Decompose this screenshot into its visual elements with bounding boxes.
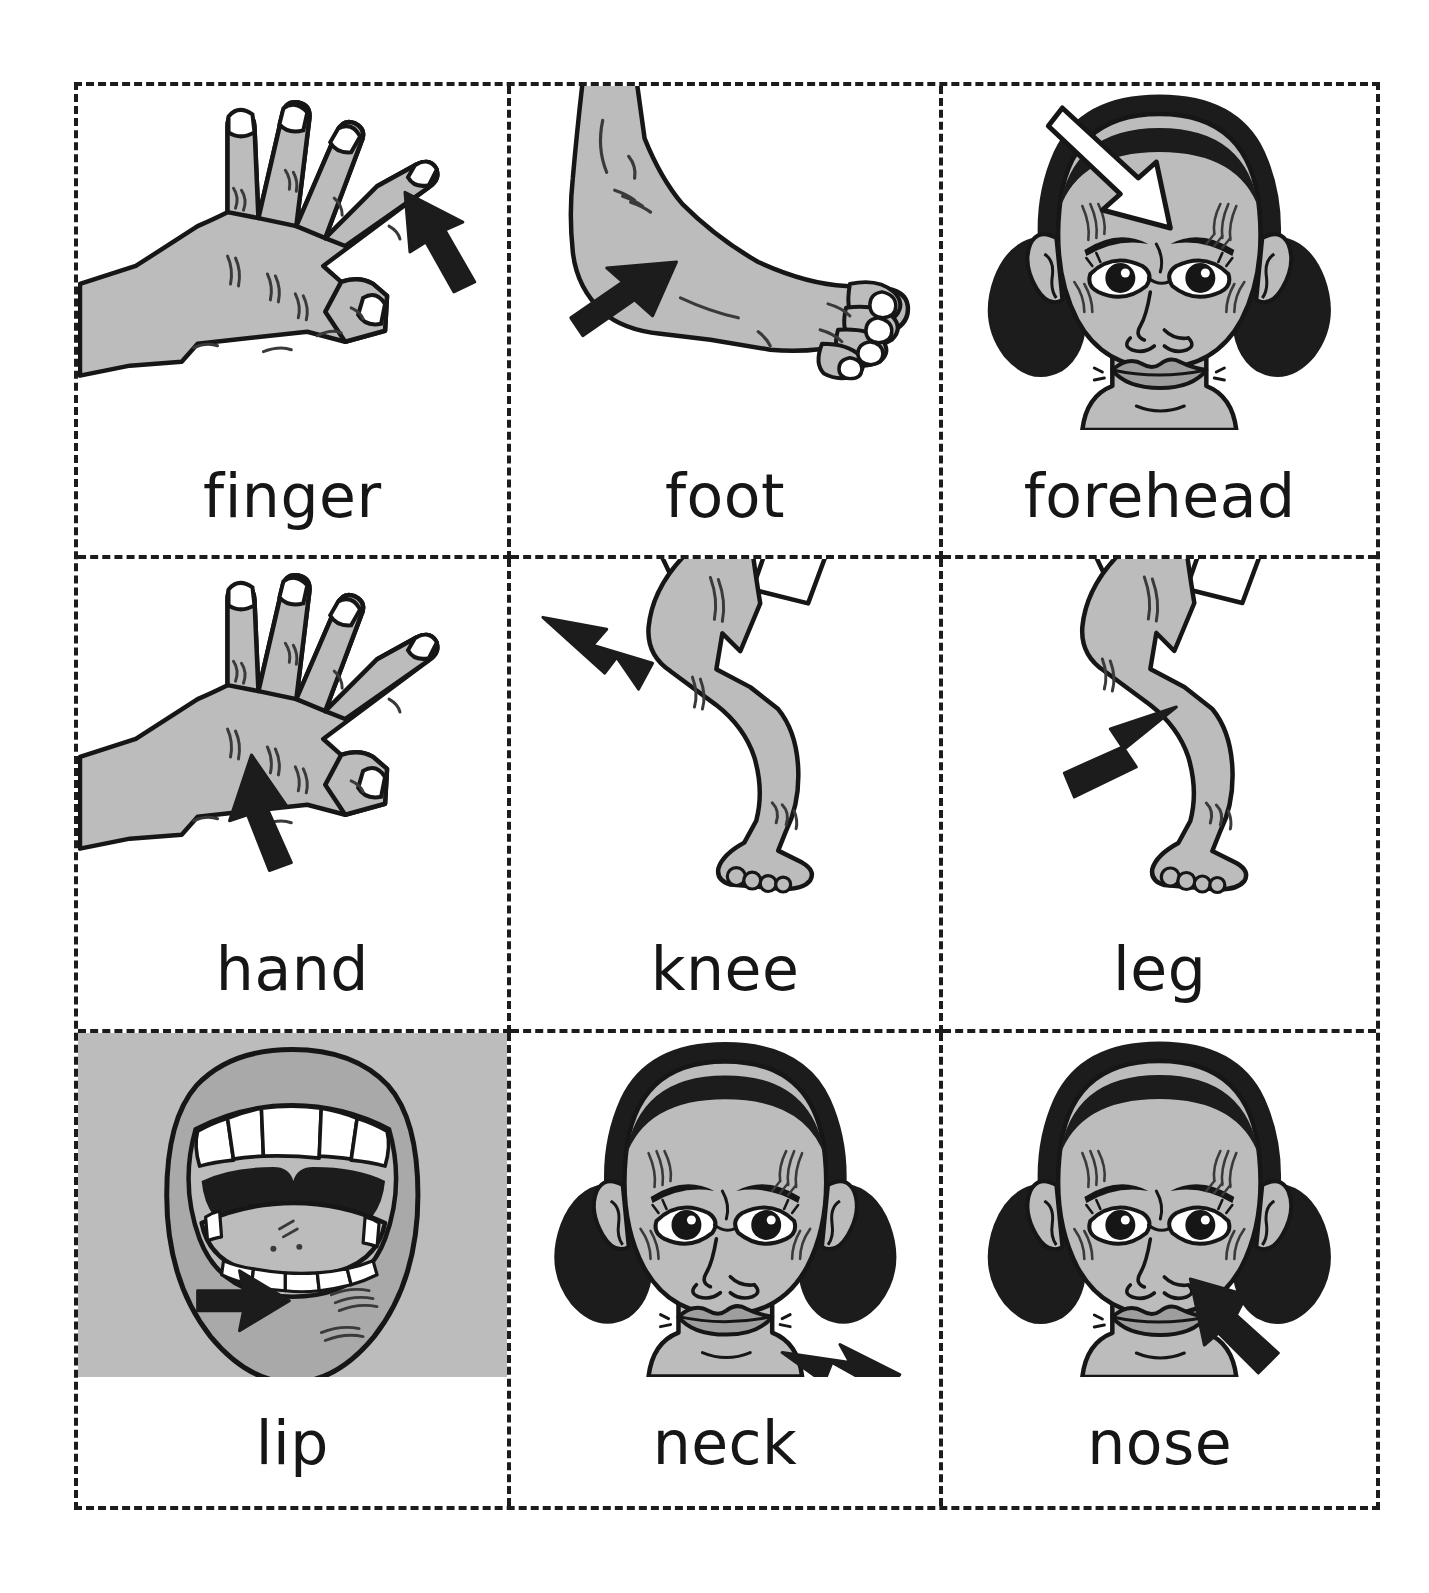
nose-illustration <box>943 1033 1376 1377</box>
flashcard-grid: finger <box>78 86 1376 1506</box>
flashcard-label: foot <box>511 430 940 559</box>
flashcard-knee[interactable]: knee <box>511 559 944 1032</box>
flashcard-label: finger <box>78 430 507 559</box>
flashcard-nose[interactable]: nose <box>943 1033 1376 1506</box>
flashcard-label: knee <box>511 903 940 1032</box>
flashcard-label: neck <box>511 1377 940 1506</box>
arrow-pointer <box>405 192 475 292</box>
flashcard-label: forehead <box>943 430 1376 559</box>
lip-illustration <box>78 1033 507 1377</box>
knee-illustration <box>511 559 940 903</box>
arrow-pointer <box>1065 707 1177 797</box>
flashcard-forehead[interactable]: forehead <box>943 86 1376 559</box>
flashcard-label: lip <box>78 1377 507 1506</box>
flashcard-finger[interactable]: finger <box>78 86 511 559</box>
neck-illustration <box>511 1033 940 1377</box>
finger-illustration <box>78 86 507 430</box>
flashcard-hand[interactable]: hand <box>78 559 511 1032</box>
flashcard-foot[interactable]: foot <box>511 86 944 559</box>
leg-illustration <box>943 559 1376 903</box>
flashcard-neck[interactable]: neck <box>511 1033 944 1506</box>
arrow-pointer <box>543 618 653 690</box>
forehead-illustration <box>943 86 1376 430</box>
flashcard-leg[interactable]: leg <box>943 559 1376 1032</box>
flashcard-label: leg <box>943 903 1376 1032</box>
flashcard-lip[interactable]: lip <box>78 1033 511 1506</box>
foot-illustration <box>511 86 940 430</box>
hand-illustration <box>78 559 507 903</box>
flashcard-sheet: finger <box>74 82 1380 1510</box>
flashcard-label: nose <box>943 1377 1376 1506</box>
flashcard-label: hand <box>78 903 507 1032</box>
